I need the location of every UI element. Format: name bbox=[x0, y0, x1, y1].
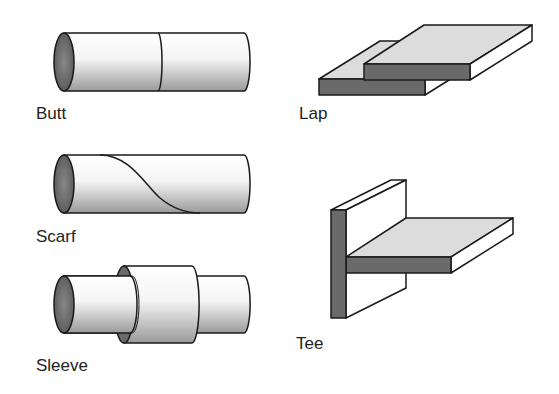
tee-label: Tee bbox=[296, 334, 323, 354]
scarf-label: Scarf bbox=[36, 227, 76, 247]
butt-label: Butt bbox=[36, 104, 66, 124]
sleeve-label: Sleeve bbox=[36, 356, 88, 376]
joints-diagram bbox=[0, 0, 559, 394]
lap-joint-figure bbox=[319, 25, 532, 95]
sleeve-joint-figure bbox=[54, 266, 250, 343]
lap-label: Lap bbox=[299, 104, 327, 124]
tee-joint-figure bbox=[331, 180, 513, 318]
scarf-joint-figure bbox=[54, 155, 250, 213]
butt-joint-figure bbox=[54, 33, 250, 91]
